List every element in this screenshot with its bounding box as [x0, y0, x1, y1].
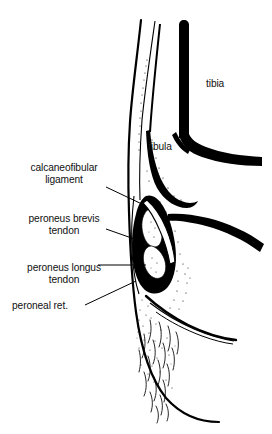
label-tibia: tibia [206, 78, 252, 90]
anatomy-figure: calcaneofibular ligament peroneus brevis… [0, 0, 272, 434]
label-peroneal-retinaculum: peroneal ret. [12, 300, 124, 312]
label-peroneus-brevis-tendon: peroneus brevis tendon [6, 213, 122, 236]
label-fibula: fibula [148, 141, 194, 153]
label-peroneus-longus-tendon: peroneus longus tendon [4, 262, 124, 285]
tibia-shaft [179, 20, 189, 138]
label-calcaneofibular-ligament: calcaneofibular ligament [6, 162, 122, 185]
